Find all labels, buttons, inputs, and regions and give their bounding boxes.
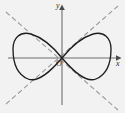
y-axis-arrow-icon: [59, 5, 65, 11]
y-axis-label: y: [56, 2, 60, 10]
math-figure: x y O: [0, 0, 125, 113]
lemniscate-plot: [0, 0, 125, 113]
x-axis-label: x: [116, 60, 120, 68]
lemniscate-right-lobe-path: [62, 33, 111, 80]
origin-label: O: [56, 60, 62, 68]
